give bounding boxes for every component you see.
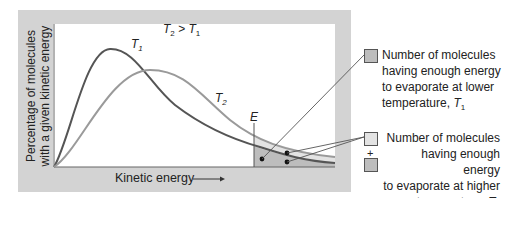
legend-lower-temp: Number of molecules having enough energy… xyxy=(382,47,501,116)
t1-curve-label: T1 xyxy=(131,37,143,53)
legend-higher-temp: Number of molecules having enough energy… xyxy=(382,130,500,198)
energy-threshold-label: E xyxy=(250,110,258,124)
swatch-higher-temp-extra xyxy=(364,132,378,146)
swatch-higher-temp-base xyxy=(364,158,378,172)
condition-label: T2 > T1 xyxy=(163,22,200,38)
x-axis-label: Kinetic energy xyxy=(115,171,194,185)
t2-curve-label: T2 xyxy=(215,91,227,107)
swatch-lower-temp xyxy=(364,49,378,63)
